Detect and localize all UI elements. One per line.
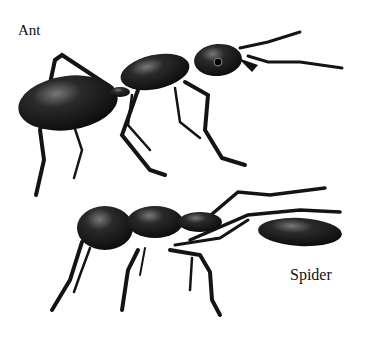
- ant-eye: [214, 58, 222, 66]
- ant-body: [15, 42, 258, 137]
- illustration: [0, 0, 371, 341]
- spider-figure: [52, 188, 340, 315]
- spider-body: [77, 206, 343, 250]
